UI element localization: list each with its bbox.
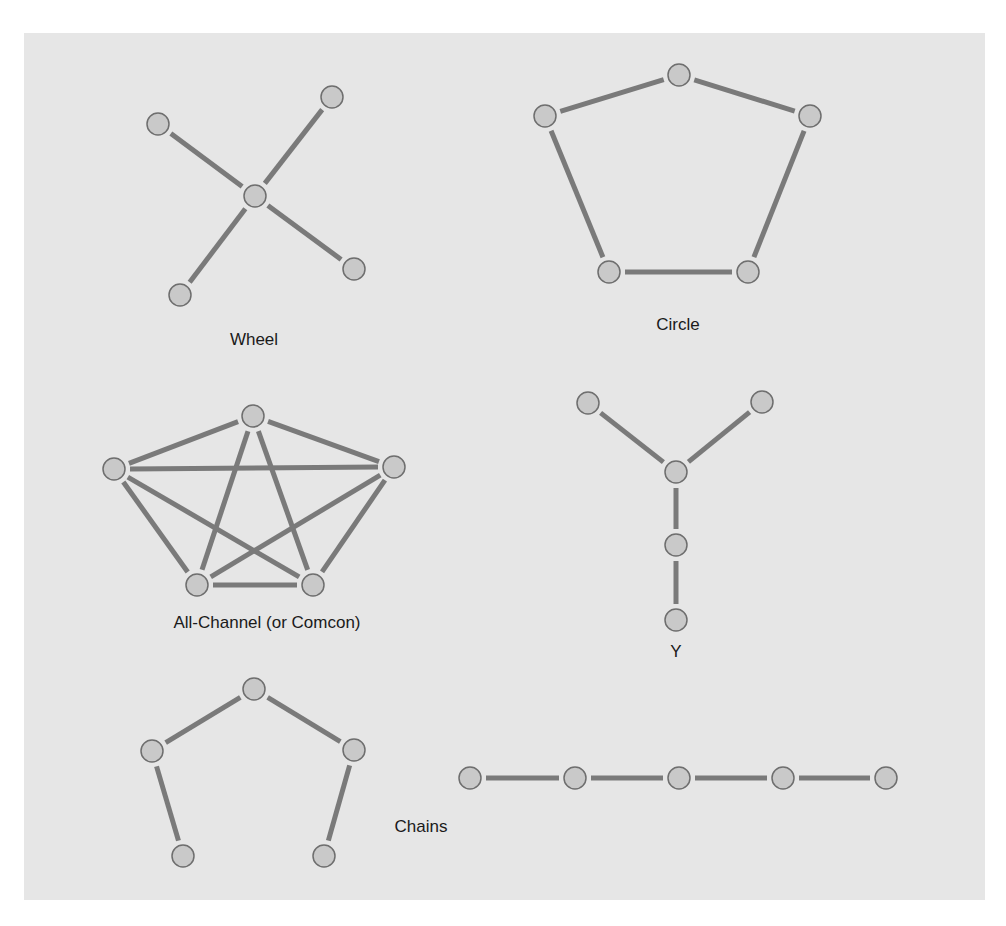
edge-line (560, 80, 663, 112)
edge-line (688, 412, 749, 462)
node-circle (141, 740, 163, 762)
node-circle (243, 678, 265, 700)
node-circle (564, 767, 586, 789)
edge-line (171, 134, 242, 187)
edge-line (551, 131, 603, 257)
wheel-network (147, 86, 365, 306)
edge-line (190, 209, 246, 282)
node-circle (665, 461, 687, 483)
edge-line (328, 765, 349, 840)
chains-label: Chains (395, 817, 448, 837)
edge-line (258, 431, 307, 570)
all-channel-network (103, 405, 405, 596)
edge-line (694, 80, 794, 111)
edge-line (166, 697, 241, 742)
node-circle (343, 739, 365, 761)
edge-line (202, 431, 248, 570)
node-circle (103, 458, 125, 480)
chain-bent-network (141, 678, 365, 867)
edge-line (268, 205, 341, 259)
node-circle (772, 767, 794, 789)
y-label: Y (670, 642, 681, 662)
node-circle (875, 767, 897, 789)
node-circle (313, 845, 335, 867)
y-network (577, 391, 773, 631)
node-circle (242, 405, 264, 427)
node-circle (383, 456, 405, 478)
edge-line (129, 422, 238, 464)
edge-line (601, 413, 664, 462)
communication-networks-diagram (0, 0, 1006, 926)
node-circle (668, 767, 690, 789)
edge-line (130, 467, 378, 469)
edge-line (754, 131, 804, 257)
circle-network (534, 64, 821, 283)
wheel-label: Wheel (230, 330, 278, 350)
node-circle (737, 261, 759, 283)
chain-straight-network (459, 767, 897, 789)
node-circle (598, 261, 620, 283)
node-circle (244, 185, 266, 207)
node-circle (577, 392, 599, 414)
node-circle (186, 574, 208, 596)
all-channel-label: All-Channel (or Comcon) (173, 613, 360, 633)
node-circle (665, 609, 687, 631)
edge-line (268, 697, 341, 741)
node-circle (668, 64, 690, 86)
node-circle (169, 284, 191, 306)
node-circle (799, 105, 821, 127)
node-circle (147, 113, 169, 135)
edge-line (157, 766, 179, 840)
edge-line (268, 421, 379, 461)
node-circle (172, 845, 194, 867)
node-circle (665, 534, 687, 556)
node-circle (321, 86, 343, 108)
node-circle (343, 258, 365, 280)
node-circle (459, 767, 481, 789)
node-circle (302, 574, 324, 596)
node-circle (751, 391, 773, 413)
edge-line (265, 110, 322, 184)
node-circle (534, 105, 556, 127)
circle-label: Circle (656, 315, 699, 335)
